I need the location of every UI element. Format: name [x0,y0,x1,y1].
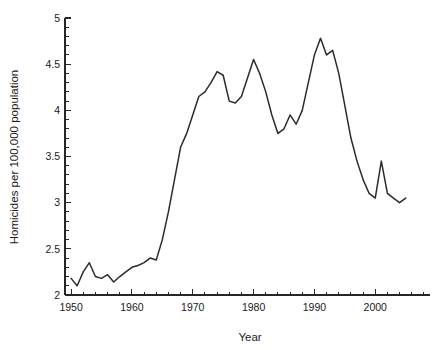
series-line [71,38,406,285]
y-tick-label: 4 [54,104,60,116]
y-tick-label: 2.5 [45,243,60,255]
x-axis-title: Year [238,331,261,343]
x-tick-label: 1980 [242,301,266,313]
y-axis-title: Homicides per 100,000 population [8,70,20,245]
x-tick-label: 1950 [59,301,83,313]
x-axis: 195019601970198019902000 [59,289,430,313]
x-tick-label: 1960 [120,301,144,313]
data-series-group [71,38,406,285]
x-tick-label: 1990 [303,301,327,313]
chart-svg: 22.533.544.55 195019601970198019902000 H… [0,0,439,350]
y-tick-label: 5 [54,12,60,24]
homicide-rate-chart: 22.533.544.55 195019601970198019902000 H… [0,0,439,350]
y-tick-label: 3 [54,196,60,208]
y-tick-label: 4.5 [45,58,60,70]
y-axis: 22.533.544.55 [45,12,71,301]
y-tick-label: 3.5 [45,150,60,162]
y-tick-label: 2 [54,289,60,301]
x-tick-label: 1970 [181,301,205,313]
x-tick-label: 2000 [364,301,388,313]
